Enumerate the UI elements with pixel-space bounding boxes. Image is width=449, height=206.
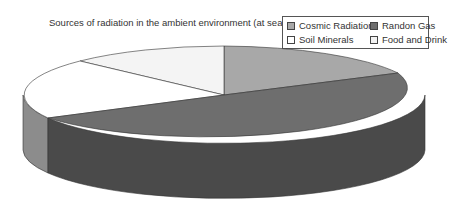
- pie-chart: [0, 0, 449, 206]
